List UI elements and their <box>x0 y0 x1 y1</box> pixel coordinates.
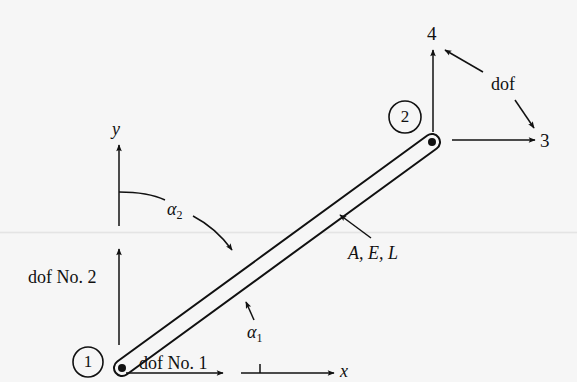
dof-4-label: 4 <box>427 24 437 43</box>
alpha2-arc-start <box>119 192 165 200</box>
node-2-label: 2 <box>390 108 420 125</box>
y-axis-label: y <box>112 120 120 138</box>
node-1-label: 1 <box>73 353 103 370</box>
dof-1-label: dof No. 1 <box>139 354 208 372</box>
node-2-pin <box>428 138 436 146</box>
alpha2-subscript: 2 <box>176 208 182 222</box>
alpha1-arrow <box>246 302 254 320</box>
truss-element-diagram <box>0 0 577 382</box>
dof-label-to-3-arrow <box>515 100 534 128</box>
properties-leader-arrow <box>340 215 371 238</box>
dof-group-label: dof <box>491 75 515 93</box>
alpha2-label: α2 <box>167 200 182 221</box>
node-1-pin <box>118 364 126 372</box>
element-properties-label: A, E, L <box>348 244 398 262</box>
dof-2-label: dof No. 2 <box>28 268 97 286</box>
dof-label-to-4-arrow <box>445 50 483 72</box>
dof-3-label: 3 <box>540 131 550 150</box>
x-axis-label: x <box>340 362 348 380</box>
alpha2-arc-arrow <box>193 216 232 250</box>
alpha1-label: α1 <box>247 323 262 344</box>
alpha1-subscript: 1 <box>256 331 262 345</box>
